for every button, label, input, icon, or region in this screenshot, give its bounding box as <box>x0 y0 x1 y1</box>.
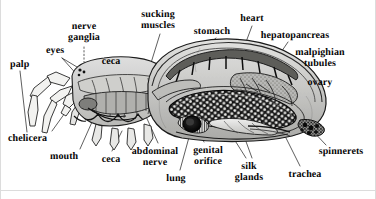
label-genital-orifice: genital orifice <box>193 146 223 167</box>
label-spinnerets: spinnerets <box>319 147 364 158</box>
spider-anatomy-figure: palp eyes nerve ganglia ceca sucking mus… <box>0 0 376 199</box>
label-stomach: stomach <box>194 27 230 38</box>
label-eyes: eyes <box>46 46 64 57</box>
label-hepatopancreas: hepatopancreas <box>261 31 329 42</box>
label-chelicera: chelicera <box>8 134 47 145</box>
label-ceca-lower: ceca <box>102 155 121 166</box>
label-malpighian-tubules: malpighian tubules <box>295 48 344 69</box>
label-trachea: trachea <box>289 170 322 181</box>
label-ceca-upper: ceca <box>102 57 121 68</box>
label-abdominal-nerve: abdominal nerve <box>132 147 178 168</box>
label-heart: heart <box>240 14 263 25</box>
label-nerve-ganglia: nerve ganglia <box>68 22 100 43</box>
label-lung: lung <box>166 174 185 185</box>
label-mouth: mouth <box>50 152 78 163</box>
label-ovary: ovary <box>308 78 333 89</box>
spinnerets-cluster <box>298 119 324 136</box>
label-sucking-muscles: sucking muscles <box>141 10 175 31</box>
label-palp: palp <box>10 60 29 71</box>
label-silk-glands: silk glands <box>235 162 263 183</box>
